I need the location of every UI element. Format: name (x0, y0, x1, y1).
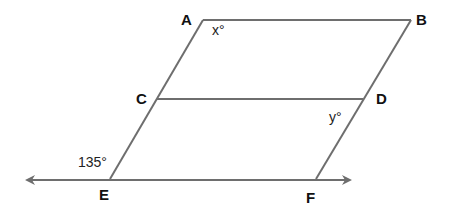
angle-label-y: y° (329, 109, 342, 125)
point-label-d: D (376, 90, 387, 107)
geometry-diagram: A B C D E F x° y° 135° (0, 0, 451, 210)
point-label-f: F (306, 189, 315, 206)
angle-label-135: 135° (78, 154, 107, 170)
point-label-b: B (416, 11, 427, 28)
angle-label-x: x° (212, 22, 225, 38)
point-label-a: A (181, 11, 192, 28)
point-label-c: C (136, 90, 147, 107)
point-label-e: E (99, 186, 109, 203)
